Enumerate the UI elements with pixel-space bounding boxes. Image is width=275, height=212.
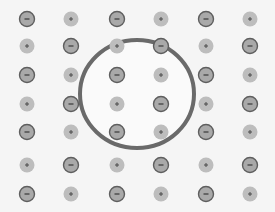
- negative-ion-icon: [20, 12, 35, 27]
- negative-ion-icon: [110, 125, 125, 140]
- negative-ion-icon: [199, 187, 214, 202]
- positive-ion-icon: [20, 158, 35, 173]
- positive-ion-icon: [64, 68, 79, 83]
- negative-ion-icon: [199, 12, 214, 27]
- positive-ion-icon: [64, 125, 79, 140]
- positive-ion-icon: [154, 125, 169, 140]
- negative-ion-icon: [154, 39, 169, 54]
- positive-ion-icon: [20, 39, 35, 54]
- positive-ion-icon: [110, 97, 125, 112]
- negative-ion-icon: [110, 187, 125, 202]
- negative-ion-icon: [154, 158, 169, 173]
- negative-ion-icon: [243, 97, 258, 112]
- negative-ion-icon: [20, 187, 35, 202]
- negative-ion-icon: [64, 97, 79, 112]
- highlight-circle: [80, 40, 194, 148]
- positive-ion-icon: [110, 158, 125, 173]
- negative-ion-icon: [110, 12, 125, 27]
- positive-ion-icon: [20, 97, 35, 112]
- positive-ion-icon: [154, 68, 169, 83]
- negative-ion-icon: [110, 68, 125, 83]
- positive-ion-icon: [199, 97, 214, 112]
- positive-ion-icon: [199, 158, 214, 173]
- positive-ion-icon: [243, 125, 258, 140]
- positive-ion-icon: [110, 39, 125, 54]
- negative-ion-icon: [154, 97, 169, 112]
- negative-ion-icon: [199, 125, 214, 140]
- negative-ion-icon: [64, 158, 79, 173]
- highlight-circle-layer: [80, 40, 194, 148]
- negative-ion-icon: [199, 68, 214, 83]
- negative-ion-icon: [20, 125, 35, 140]
- positive-ion-icon: [243, 12, 258, 27]
- negative-ion-icon: [20, 68, 35, 83]
- positive-ion-icon: [243, 187, 258, 202]
- positive-ion-icon: [64, 12, 79, 27]
- positive-ion-icon: [199, 39, 214, 54]
- positive-ion-icon: [154, 187, 169, 202]
- negative-ion-icon: [64, 39, 79, 54]
- positive-ion-icon: [243, 68, 258, 83]
- ionic-lattice-diagram: [0, 0, 275, 212]
- lattice-canvas: [0, 0, 275, 212]
- positive-ion-icon: [64, 187, 79, 202]
- positive-ion-icon: [154, 12, 169, 27]
- negative-ion-icon: [243, 158, 258, 173]
- negative-ion-icon: [243, 39, 258, 54]
